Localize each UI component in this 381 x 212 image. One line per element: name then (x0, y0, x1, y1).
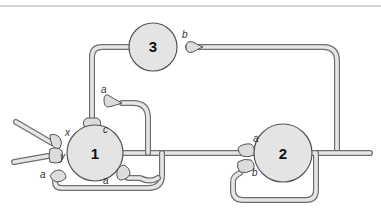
neuron-2-label: 2 (279, 145, 287, 162)
synapse-terminal-n2-a (238, 144, 255, 157)
label-a-left: a (40, 169, 46, 180)
neuron-3: 3 (129, 23, 177, 71)
neuron-2: 2 (254, 124, 312, 182)
label-c: c (103, 124, 108, 135)
neuron-1: 1 (67, 125, 123, 181)
label-n3-b: b (182, 29, 188, 40)
axons (14, 47, 370, 200)
synapse-terminal-x (50, 134, 62, 148)
label-a-bottom: a (103, 175, 109, 186)
label-n2-a: a (253, 133, 259, 144)
label-x: x (64, 127, 71, 138)
label-y: y (59, 151, 66, 162)
neuron-1-label: 1 (91, 145, 99, 162)
neuron-3-label: 3 (149, 38, 157, 55)
synapse-terminal-a-left (50, 170, 66, 182)
label-a-top: a (101, 84, 107, 95)
label-n2-b: b (252, 167, 258, 178)
synapse-terminal-a-top (104, 95, 122, 107)
neural-circuit-diagram: 3 1 2 b c a x y a a a b (0, 0, 381, 212)
synapse-terminal-n3-b (186, 42, 203, 53)
